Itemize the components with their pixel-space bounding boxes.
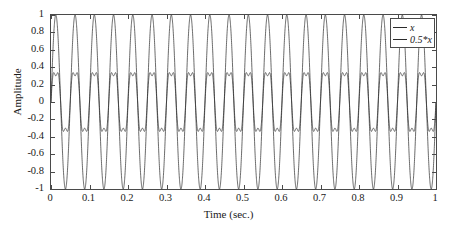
y-tick bbox=[432, 15, 436, 16]
x-tick bbox=[436, 15, 437, 19]
x-tick-label: 0.2 bbox=[107, 192, 147, 203]
y-tick bbox=[432, 85, 436, 86]
y-tick-label: -0.8 bbox=[0, 165, 44, 176]
x-tick bbox=[398, 185, 399, 189]
y-tick-label: 0.6 bbox=[0, 43, 44, 54]
x-tick-label: 0.4 bbox=[184, 192, 224, 203]
plot-area bbox=[50, 14, 437, 190]
x-tick-label: 0.6 bbox=[261, 192, 301, 203]
x-tick bbox=[205, 15, 206, 19]
x-tick-label: 1 bbox=[415, 192, 455, 203]
x-tick-label: 0.8 bbox=[338, 192, 378, 203]
y-tick bbox=[51, 154, 55, 155]
y-tick-label: -0.6 bbox=[0, 147, 44, 158]
y-tick-label: 0 bbox=[0, 95, 44, 106]
x-tick bbox=[128, 185, 129, 189]
y-tick bbox=[51, 85, 55, 86]
x-tick bbox=[282, 185, 283, 189]
x-tick bbox=[128, 15, 129, 19]
y-tick bbox=[51, 32, 55, 33]
y-tick bbox=[51, 137, 55, 138]
y-tick bbox=[432, 172, 436, 173]
legend: x0.5*x bbox=[390, 18, 435, 48]
x-tick bbox=[321, 185, 322, 189]
y-tick bbox=[51, 67, 55, 68]
x-tick bbox=[244, 185, 245, 189]
x-tick bbox=[90, 15, 91, 19]
x-tick-label: 0.7 bbox=[300, 192, 340, 203]
legend-label: 0.5*x bbox=[410, 34, 432, 45]
y-tick-label: 0.4 bbox=[0, 60, 44, 71]
y-tick bbox=[51, 15, 55, 16]
y-tick bbox=[51, 119, 55, 120]
y-tick bbox=[51, 50, 55, 51]
y-tick bbox=[432, 137, 436, 138]
x-tick bbox=[359, 15, 360, 19]
legend-swatch bbox=[393, 27, 407, 28]
x-tick bbox=[359, 185, 360, 189]
x-tick bbox=[436, 185, 437, 189]
legend-swatch bbox=[393, 39, 407, 40]
x-tick bbox=[244, 15, 245, 19]
y-tick bbox=[432, 50, 436, 51]
y-tick-label: -0.2 bbox=[0, 112, 44, 123]
x-tick bbox=[167, 15, 168, 19]
y-tick bbox=[432, 119, 436, 120]
y-tick-label: 1 bbox=[0, 8, 44, 19]
x-tick-label: 0 bbox=[30, 192, 70, 203]
x-tick bbox=[205, 185, 206, 189]
legend-entry: 0.5*x bbox=[393, 33, 431, 45]
y-tick bbox=[432, 102, 436, 103]
y-tick bbox=[51, 172, 55, 173]
figure: Amplitude Time (sec.) 10.80.60.40.20-0.2… bbox=[0, 0, 457, 231]
y-tick bbox=[432, 189, 436, 190]
waveform-plot bbox=[51, 15, 436, 189]
legend-entry: x bbox=[393, 21, 431, 33]
x-tick-label: 0.5 bbox=[223, 192, 263, 203]
series-line bbox=[51, 73, 436, 132]
y-tick bbox=[51, 189, 55, 190]
x-axis-title: Time (sec.) bbox=[0, 208, 457, 220]
x-tick bbox=[321, 15, 322, 19]
x-tick bbox=[282, 15, 283, 19]
x-tick bbox=[167, 185, 168, 189]
y-tick bbox=[432, 67, 436, 68]
y-tick bbox=[51, 102, 55, 103]
y-tick-label: 0.8 bbox=[0, 25, 44, 36]
x-tick-label: 0.3 bbox=[146, 192, 186, 203]
y-tick-label: -0.4 bbox=[0, 130, 44, 141]
x-tick-label: 0.9 bbox=[377, 192, 417, 203]
y-tick bbox=[432, 154, 436, 155]
x-tick bbox=[90, 185, 91, 189]
x-tick-label: 0.1 bbox=[69, 192, 109, 203]
legend-label: x bbox=[410, 22, 414, 33]
y-tick-label: 0.2 bbox=[0, 78, 44, 89]
